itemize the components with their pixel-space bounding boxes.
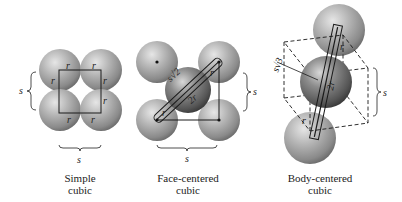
radius-label: r — [67, 114, 71, 125]
caption-face-centered-cubic: Face-centered cubic — [138, 172, 238, 196]
diagonal-label: s√3 — [270, 56, 285, 73]
radius-label: r — [103, 95, 107, 106]
caption-line: Simple — [40, 172, 120, 184]
radius-label: r — [66, 60, 70, 71]
side-label: s — [253, 86, 257, 97]
bottom-brace — [59, 145, 101, 151]
caption-line: Body-centered — [270, 172, 370, 184]
bottom-label: s — [77, 154, 81, 165]
face-centered-cubic-panel: s√2 2r r r s s — [136, 41, 257, 164]
caption-line: cubic — [40, 184, 120, 196]
radius-label: r — [91, 114, 95, 125]
side-brace — [243, 73, 251, 111]
caption-line: cubic — [270, 184, 370, 196]
side-label: s — [19, 85, 23, 96]
lattice-point — [155, 60, 158, 63]
simple-cubic-panel: r r r r r r r s s — [19, 49, 122, 165]
radius-label: r — [302, 115, 306, 126]
sphere — [39, 89, 81, 131]
caption-simple-cubic: Simple cubic — [40, 172, 120, 196]
side-brace — [27, 72, 36, 110]
radius-label: r — [340, 41, 344, 52]
radius-label: r — [210, 67, 214, 78]
bottom-label: s — [185, 153, 189, 164]
radius-label: r — [103, 75, 107, 86]
bottom-brace — [157, 145, 217, 151]
caption-line: Face-centered — [138, 172, 238, 184]
radius-label: r — [162, 107, 166, 118]
caption-body-centered-cubic: Body-centered cubic — [270, 172, 370, 196]
side-label: s — [383, 87, 387, 98]
caption-line: cubic — [138, 184, 238, 196]
radius-label: r — [51, 75, 55, 86]
sphere — [313, 4, 365, 56]
radius-label: r — [92, 60, 96, 71]
side-brace — [373, 68, 381, 116]
body-centered-cubic-panel: s√3 2r r r s — [270, 4, 387, 164]
